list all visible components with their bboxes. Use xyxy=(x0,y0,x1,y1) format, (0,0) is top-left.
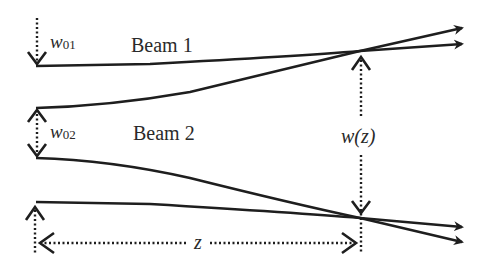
w02-label: w02 xyxy=(50,121,76,142)
beam-1-lower-ray xyxy=(36,28,462,108)
beam-1 xyxy=(36,28,462,108)
w01-arrow-icon xyxy=(28,18,46,64)
wz-label: w(z) xyxy=(341,125,376,148)
beam-1-upper-ray xyxy=(36,44,462,66)
w01-label: w01 xyxy=(50,31,76,52)
w02-arrow-icon xyxy=(28,110,46,156)
beam-2-upper-ray xyxy=(36,158,462,242)
z-origin-arrow-icon xyxy=(26,207,44,254)
beam-2-lower-ray xyxy=(36,202,462,227)
wz-arrow-icon xyxy=(352,57,370,253)
gaussian-beams-diagram: w01 Beam 1 w02 Beam 2 w(z) z xyxy=(0,0,489,271)
beam-1-label: Beam 1 xyxy=(131,34,193,56)
beam-2 xyxy=(36,158,462,242)
beam-2-label: Beam 2 xyxy=(133,122,195,144)
z-label: z xyxy=(193,231,202,253)
